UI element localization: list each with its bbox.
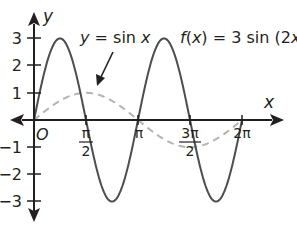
ytick-label-m3: −3	[0, 192, 22, 211]
ytick-label-3: 3	[12, 29, 22, 48]
svg-text:3π: 3π	[181, 125, 199, 141]
origin-label: O	[36, 125, 49, 144]
x-axis-label: x	[263, 92, 275, 112]
xtick-label-pi-over-2: π 2	[79, 125, 93, 159]
annotation-arrow-icon	[96, 52, 113, 86]
ytick-label-1: 1	[12, 84, 22, 103]
svg-text:2: 2	[186, 143, 195, 159]
x-axis-left-arrow-icon	[10, 114, 24, 126]
svg-text:2: 2	[82, 143, 91, 159]
y-axis-up-arrow-icon	[28, 12, 40, 26]
xtick-label-2pi: 2π	[233, 125, 251, 141]
x-axis-right-arrow-icon	[270, 114, 284, 126]
xtick-label-pi: π	[135, 125, 144, 141]
sine-chart: 3 2 1 −1 −2 −3 y x O π 2 π 3π 2 2π y = s…	[0, 0, 297, 227]
ytick-label-m1: −1	[0, 138, 22, 157]
ytick-label-m2: −2	[0, 165, 22, 184]
f-annotation: f(x) = 3 sin (2x)	[180, 28, 297, 47]
y-axis-label: y	[42, 6, 54, 26]
sin-x-annotation: y = sin x	[79, 28, 151, 47]
svg-text:π: π	[82, 125, 91, 141]
ytick-label-2: 2	[12, 56, 22, 75]
